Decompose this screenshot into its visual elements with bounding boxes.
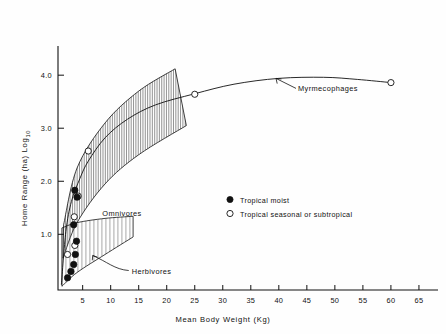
annotation-myrmecophages: Myrmecophages <box>276 78 358 93</box>
herbivores-leader-line <box>92 256 128 271</box>
svg-text:Home Range (ha) Log10: Home Range (ha) Log10 <box>20 130 31 226</box>
x-tick-label-25: 25 <box>190 296 199 305</box>
legend-label-tropical-seasonal: Tropical seasonal or subtropical <box>240 210 352 219</box>
x-tick-label-15: 15 <box>134 296 143 305</box>
data-point-tropical-moist-7 <box>72 187 78 193</box>
data-point-tropical-seasonal-5 <box>192 91 198 97</box>
x-tick-label-55: 55 <box>358 296 367 305</box>
x-tick-label-20: 20 <box>162 296 171 305</box>
x-axis-ticks: 5101520253035404550556065 <box>80 285 423 305</box>
x-tick-label-35: 35 <box>246 296 255 305</box>
y-tick-label-4.0: 4.0 <box>41 71 52 80</box>
fitted-curve <box>61 77 391 284</box>
data-point-tropical-moist-0 <box>64 275 70 281</box>
myrmecophages-arrow-icon <box>276 78 296 88</box>
data-point-tropical-moist-5 <box>70 222 76 228</box>
chart-figure: 5101520253035404550556065 1.02.03.04.0 M… <box>0 0 446 334</box>
x-axis-title: Mean Body Weight (Kg) <box>175 315 270 324</box>
y-tick-label-2.0: 2.0 <box>41 177 52 186</box>
x-tick-label-60: 60 <box>387 296 396 305</box>
x-tick-label-50: 50 <box>330 296 339 305</box>
omnivores-label: Omnivores <box>102 209 141 218</box>
y-tick-label-3.0: 3.0 <box>41 124 52 133</box>
x-tick-label-10: 10 <box>106 296 115 305</box>
herbivores-label: Herbivores <box>132 267 172 276</box>
y-axis-title-subscript: 10 <box>25 130 31 138</box>
data-point-tropical-moist-1 <box>68 268 74 274</box>
legend-marker-filled-circle-icon <box>227 196 233 202</box>
omnivores-band-outline <box>63 69 186 258</box>
data-point-tropical-moist-4 <box>73 238 79 244</box>
x-tick-label-45: 45 <box>302 296 311 305</box>
y-axis-ticks: 1.02.03.04.0 <box>41 71 64 239</box>
x-tick-label-5: 5 <box>80 296 84 305</box>
y-axis-title-base: Home Range (ha) Log <box>20 138 29 226</box>
omnivores-band <box>63 42 186 294</box>
y-axis-title: Home Range (ha) Log10 <box>20 130 31 226</box>
y-tick-label-1.0: 1.0 <box>41 230 52 239</box>
annotation-herbivores: Herbivores <box>92 256 171 276</box>
chart-legend: Tropical moist Tropical seasonal or subt… <box>227 196 353 219</box>
data-point-tropical-seasonal-4 <box>85 148 91 154</box>
data-point-tropical-moist-2 <box>70 261 76 267</box>
legend-label-tropical-moist: Tropical moist <box>240 196 289 205</box>
data-point-tropical-seasonal-2 <box>71 214 77 220</box>
annotation-omnivores: Omnivores <box>102 209 141 218</box>
data-point-tropical-moist-6 <box>74 194 80 200</box>
data-point-tropical-seasonal-6 <box>388 80 394 86</box>
myrmecophages-label: Myrmecophages <box>298 84 358 93</box>
data-point-tropical-moist-3 <box>72 251 78 257</box>
x-tick-label-40: 40 <box>274 296 283 305</box>
legend-marker-open-circle-icon <box>227 210 233 216</box>
home-range-scatter-chart: 5101520253035404550556065 1.02.03.04.0 M… <box>0 0 446 334</box>
x-tick-label-30: 30 <box>218 296 227 305</box>
x-tick-label-65: 65 <box>415 296 424 305</box>
data-point-tropical-seasonal-0 <box>64 251 70 257</box>
